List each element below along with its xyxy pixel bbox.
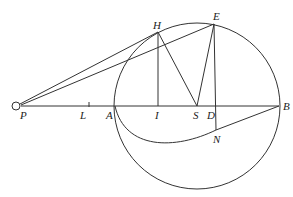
label-H: H xyxy=(152,19,162,31)
geometry-diagram: P L A I S D B H E N xyxy=(0,0,293,197)
label-P: P xyxy=(19,109,27,121)
label-S: S xyxy=(193,109,199,121)
line-SE xyxy=(197,24,214,106)
label-B: B xyxy=(283,100,290,112)
label-N: N xyxy=(212,133,221,145)
line-PH xyxy=(20,32,158,104)
label-L: L xyxy=(79,109,86,121)
label-D: D xyxy=(206,109,215,121)
label-I: I xyxy=(154,109,160,121)
point-P-marker xyxy=(12,102,20,110)
label-E: E xyxy=(212,10,220,22)
label-A: A xyxy=(105,109,113,121)
line-PE xyxy=(21,24,214,105)
line-HS xyxy=(158,32,197,106)
